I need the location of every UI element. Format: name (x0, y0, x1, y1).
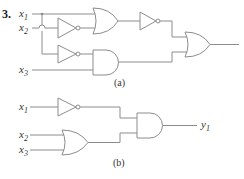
not-gate-right-a (140, 12, 160, 30)
or-gate-upper-a (93, 8, 118, 34)
input-x3-label-b: x3 (18, 143, 28, 158)
or-gate-final-a (185, 32, 210, 57)
wire-x1-branch-a (42, 14, 58, 54)
wire-or-to-and-b (88, 133, 137, 143)
circuit-b: x1 x2 x3 y1 (b) (18, 98, 210, 169)
not-gate-b (58, 98, 80, 116)
input-x2-label-b: x2 (18, 128, 28, 143)
caption-b: (b) (113, 157, 125, 169)
input-x1-label-a: x1 (18, 7, 28, 22)
input-x3-label-a: x3 (18, 63, 28, 78)
wire-x2-a (32, 25, 58, 28)
and-gate-b (137, 113, 163, 138)
problem-number: 3. (2, 7, 11, 21)
not-gate-lower-a (58, 45, 80, 63)
input-x2-label-a: x2 (18, 21, 28, 36)
wire-and-to-final-or (118, 52, 189, 62)
and-gate-a (93, 50, 118, 75)
caption-a: (a) (114, 77, 125, 89)
circuit-a: x1 x2 x3 (18, 7, 239, 89)
output-y1-label: y1 (200, 118, 210, 133)
or-gate-b (62, 130, 88, 155)
logic-circuit-diagram: 3. x1 x2 x3 (0, 0, 244, 179)
wire-not-to-final-or (160, 21, 189, 37)
input-x1-label-b: x1 (18, 100, 28, 115)
wire-not-to-and-b (80, 107, 137, 118)
not-gate-x2-a (58, 18, 80, 38)
